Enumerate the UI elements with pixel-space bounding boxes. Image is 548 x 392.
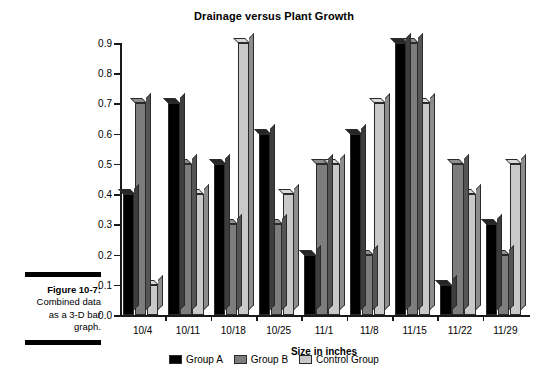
- y-axis-tick: [114, 315, 120, 317]
- bar-side-face: [361, 124, 366, 310]
- bar-front-face: [395, 43, 407, 315]
- bar-group-a-11-29: [486, 224, 498, 315]
- x-axis-tick: [256, 315, 258, 321]
- bar-side-face: [406, 33, 411, 310]
- y-axis-tick: [114, 224, 120, 226]
- x-axis-tick-label: 11/22: [448, 325, 472, 336]
- bar-side-face: [430, 93, 435, 310]
- y-axis-tick: [114, 255, 120, 257]
- bar-side-face: [294, 184, 299, 310]
- figure-container: Drainage versus Plant Growth Figure 10-7…: [0, 0, 548, 392]
- x-axis-tick-label: 11/29: [493, 325, 517, 336]
- y-axis-tick-label: 0.8: [82, 68, 112, 79]
- x-axis-tick-label: 10/11: [176, 325, 200, 336]
- bar-side-face: [270, 124, 275, 310]
- bar-side-face: [180, 93, 185, 310]
- bar-front-face: [440, 285, 452, 315]
- y-axis-tick: [114, 164, 120, 166]
- chart-title: Drainage versus Plant Growth: [0, 10, 548, 22]
- x-axis-tick: [347, 315, 349, 321]
- x-axis-tick-label: 10/4: [133, 325, 152, 336]
- x-axis-tick: [165, 315, 167, 321]
- legend-label: Control Group: [316, 354, 379, 365]
- x-axis-tick-label: 11/1: [315, 325, 334, 336]
- bar-side-face: [225, 154, 230, 310]
- bar-group-a-11-22: [440, 285, 452, 315]
- bar-front-face: [350, 134, 362, 315]
- y-axis-tick: [114, 134, 120, 136]
- bar-side-face: [418, 33, 423, 310]
- bar-front-face: [214, 164, 226, 315]
- legend-swatch-icon: [299, 355, 312, 364]
- y-axis-tick-label: 0.0: [82, 310, 112, 321]
- bar-side-face: [316, 245, 321, 310]
- bar-side-face: [452, 275, 457, 310]
- x-axis-tick: [301, 315, 303, 321]
- x-axis-tick-label: 11/15: [403, 325, 427, 336]
- bar-side-face: [497, 214, 502, 310]
- bar-side-face: [204, 184, 209, 310]
- bar-group-a-11-1: [304, 255, 316, 315]
- y-axis-tick-label: 0.4: [82, 189, 112, 200]
- x-axis-tick: [437, 315, 439, 321]
- legend-label: Group B: [251, 354, 288, 365]
- bar-side-face: [249, 33, 254, 310]
- bar-side-face: [282, 214, 287, 310]
- x-axis-tick: [392, 315, 394, 321]
- bar-side-face: [464, 154, 469, 310]
- chart-legend: Group AGroup BControl Group: [0, 354, 548, 365]
- bar-side-face: [385, 93, 390, 310]
- y-axis-tick-label: 0.1: [82, 279, 112, 290]
- bar-front-face: [259, 134, 271, 315]
- bar-group-a-11-15: [395, 43, 407, 315]
- legend-item-control-group[interactable]: Control Group: [299, 354, 379, 365]
- bar-group-a-11-8: [350, 134, 362, 315]
- y-axis-tick: [114, 103, 120, 105]
- bar-side-face: [134, 184, 139, 310]
- legend-item-group-a[interactable]: Group A: [169, 354, 223, 365]
- caption-rule-bottom: [25, 340, 101, 345]
- x-axis-tick: [211, 315, 213, 321]
- y-axis-tick-label: 0.3: [82, 219, 112, 230]
- bar-side-face: [521, 154, 526, 310]
- legend-item-group-b[interactable]: Group B: [234, 354, 288, 365]
- x-axis-line: [120, 315, 530, 317]
- bar-group-a-10-11: [168, 103, 180, 315]
- bar-front-face: [304, 255, 316, 315]
- bar-group-a-10-18: [214, 164, 226, 315]
- bar-front-face: [168, 103, 180, 315]
- y-axis-tick-label: 0.5: [82, 158, 112, 169]
- x-axis-tick-label: 11/8: [360, 325, 379, 336]
- bar-side-face: [328, 154, 333, 310]
- bar-front-face: [486, 224, 498, 315]
- bar-front-face: [123, 194, 135, 315]
- y-axis-tick-label: 0.6: [82, 128, 112, 139]
- y-axis-tick: [114, 194, 120, 196]
- bar-side-face: [146, 93, 151, 310]
- plot-area: 0.00.10.20.30.40.50.60.70.80.9 10/410/11…: [120, 43, 528, 315]
- y-axis-tick-label: 0.2: [82, 249, 112, 260]
- bar-side-face: [192, 154, 197, 310]
- bar-side-face: [340, 154, 345, 310]
- y-axis-line: [120, 43, 122, 315]
- y-axis-tick-label: 0.7: [82, 98, 112, 109]
- x-axis-tick-label: 10/18: [221, 325, 246, 336]
- x-axis-tick-label: 10/25: [266, 325, 291, 336]
- bar-side-face: [476, 184, 481, 310]
- x-axis-tick: [483, 315, 485, 321]
- legend-swatch-icon: [169, 355, 182, 364]
- legend-swatch-icon: [234, 355, 247, 364]
- y-axis-tick: [114, 43, 120, 45]
- y-axis-tick: [114, 285, 120, 287]
- bar-group-a-10-25: [259, 134, 271, 315]
- bar-group-a-10-4: [123, 194, 135, 315]
- legend-label: Group A: [186, 354, 223, 365]
- y-axis-tick-label: 0.9: [82, 38, 112, 49]
- y-axis-tick: [114, 73, 120, 75]
- bar-side-face: [237, 214, 242, 310]
- bar-side-face: [158, 275, 163, 310]
